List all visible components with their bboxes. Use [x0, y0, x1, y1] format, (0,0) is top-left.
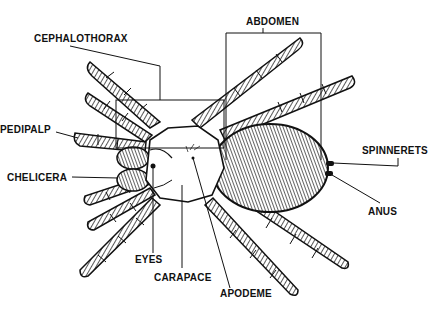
label-cephalothorax: CEPHALOTHORAX [34, 33, 128, 45]
label-eyes: EYES [135, 254, 162, 266]
abdomen-body [212, 124, 328, 212]
carapace-shape [146, 126, 224, 202]
label-apodeme: APODEME [220, 288, 272, 300]
chelicerae [117, 147, 149, 191]
label-carapace: CARAPACE [154, 272, 212, 284]
label-chelicera: CHELICERA [7, 172, 67, 184]
label-spinnerets: SPINNERETS [362, 145, 428, 157]
label-pedipalp: PEDIPALP [0, 124, 51, 136]
label-anus: ANUS [368, 206, 397, 218]
label-abdomen: ABDOMEN [246, 16, 299, 28]
